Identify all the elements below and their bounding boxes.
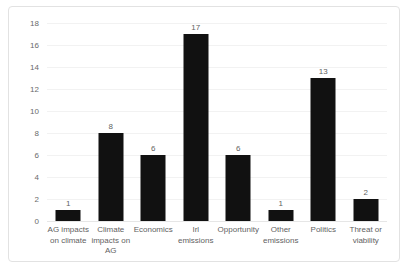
bar-value-label: 17 [191,23,200,32]
bars-layer: 1861761132 [47,23,387,221]
bar-group[interactable]: 1 [47,23,90,221]
bar[interactable] [183,34,208,221]
bar-group[interactable]: 6 [132,23,175,221]
chart-container: 024681012141618 1861761132 AG impacts on… [8,6,400,262]
x-axis-tick-label: Climate impacts on AG [90,225,133,257]
y-axis-tick-label: 8 [34,129,39,138]
gridline [47,221,387,222]
x-axis-tick-label: Politics [302,225,345,236]
x-axis-tick-label: Threat or viability [345,225,388,246]
y-axis-tick-label: 2 [34,195,39,204]
bar[interactable] [311,78,336,221]
x-axis-tick-label: Irl emissions [175,225,218,246]
y-axis-tick-label: 14 [30,63,39,72]
bar-value-label: 8 [109,122,113,131]
x-axis: AG impacts on climateClimate impacts on … [47,225,387,261]
y-axis-tick-label: 6 [34,151,39,160]
bar-value-label: 2 [364,188,368,197]
bar-group[interactable]: 13 [302,23,345,221]
x-axis-tick-label: Opportunity [217,225,260,236]
bar-value-label: 13 [319,67,328,76]
bar-group[interactable]: 17 [175,23,218,221]
y-axis-tick-label: 16 [30,41,39,50]
y-axis-tick-label: 10 [30,107,39,116]
bar-group[interactable]: 1 [260,23,303,221]
bar-value-label: 6 [151,144,155,153]
bar[interactable] [268,210,293,221]
y-axis-tick-label: 12 [30,85,39,94]
bar-value-label: 1 [279,199,283,208]
x-axis-tick-label: Other emissions [260,225,303,246]
x-axis-tick-label: AG impacts on climate [47,225,90,246]
y-axis-tick-label: 18 [30,19,39,28]
bar[interactable] [226,155,251,221]
bar[interactable] [141,155,166,221]
bar-group[interactable]: 6 [217,23,260,221]
y-axis-tick-label: 4 [34,173,39,182]
x-axis-tick-label: Economics [132,225,175,236]
y-axis-tick-label: 0 [34,217,39,226]
bar[interactable] [353,199,378,221]
y-axis: 024681012141618 [9,23,43,221]
bar-value-label: 1 [66,199,70,208]
bar[interactable] [98,133,123,221]
bar-value-label: 6 [236,144,240,153]
bar-group[interactable]: 2 [345,23,388,221]
bar[interactable] [56,210,81,221]
bar-group[interactable]: 8 [90,23,133,221]
